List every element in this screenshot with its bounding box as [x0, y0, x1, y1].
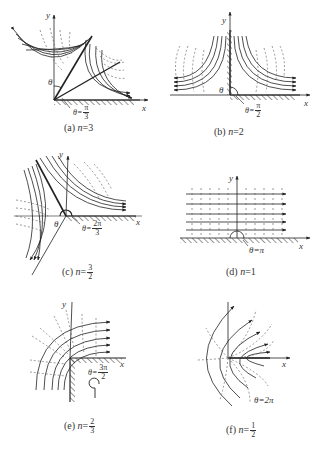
x-axis-label: x	[142, 104, 146, 113]
angle-label: θ= 3π2	[88, 364, 108, 381]
x-axis-label: x	[282, 360, 286, 369]
caption-f: (f) n=12	[226, 422, 256, 439]
x-axis-label: x	[299, 242, 303, 251]
y-axis-label: y	[62, 300, 66, 309]
flow-diagram-d	[160, 150, 321, 300]
y-axis-label: y	[59, 150, 63, 159]
caption-d: (d) n=1	[226, 266, 256, 277]
panel-a: y x θ θ= π3 (a) n=3	[0, 0, 160, 150]
angle-label: θ= π3	[73, 104, 89, 121]
angle-label: θ=2π	[254, 396, 274, 405]
caption-c: (c) n=32	[62, 264, 93, 281]
y-axis-label: y	[222, 16, 226, 25]
angle-label: θ= π2	[245, 102, 261, 119]
corner-angle-symbol: θ	[54, 220, 58, 229]
panel-b: y x θ θ= π2 (b) n=2	[160, 0, 321, 150]
y-axis-label: y	[229, 174, 233, 183]
corner-angle-symbol: θ	[219, 86, 223, 95]
panel-f: x θ=2π (f) n=12	[160, 300, 321, 451]
y-axis-label: y	[46, 11, 50, 20]
panel-d: y x θ=π (d) n=1	[160, 150, 321, 300]
x-axis-label: x	[136, 218, 140, 227]
panel-e: y x θ= 3π2 (e) n=23	[0, 300, 160, 451]
caption-a: (a) n=3	[64, 122, 93, 133]
x-axis-label: x	[120, 360, 124, 369]
panel-c: y x θ θ= 2π3 (c) n=32	[0, 150, 160, 300]
caption-b: (b) n=2	[214, 126, 244, 137]
x-axis-label: x	[304, 99, 308, 108]
angle-label: θ=π	[249, 246, 264, 255]
corner-angle-symbol: θ	[48, 78, 52, 87]
angle-label: θ= 2π3	[82, 220, 102, 237]
caption-e: (e) n=23	[64, 418, 95, 435]
